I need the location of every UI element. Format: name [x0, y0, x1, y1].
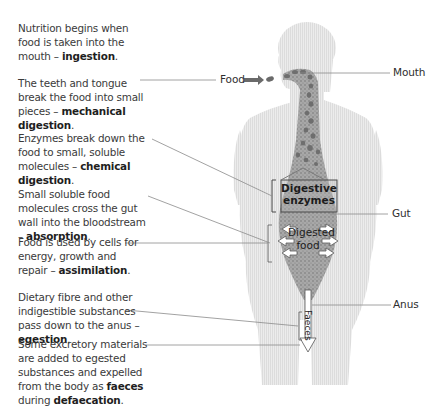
paragraph-tail: .: [121, 394, 124, 406]
term-defaecation: defaecation: [53, 394, 120, 406]
paragraph-tail: .: [115, 50, 118, 62]
term-faeces: faeces: [107, 380, 144, 392]
paragraph-defaecation: Some excretory materials are added to eg…: [18, 337, 162, 406]
paragraph-ingestion: Nutrition begins when food is taken into…: [18, 21, 146, 63]
paragraph-assimilation: Food is used by cells for energy, growth…: [18, 235, 148, 277]
label-digestive-enzymes: Digestive enzymes: [281, 182, 337, 206]
paragraph-mid: during: [18, 394, 53, 406]
paragraph-text: Dietary fibre and other indigestible sub…: [18, 291, 139, 331]
paragraph-chemical-digestion: Enzymes break down the food to small, so…: [18, 131, 154, 187]
label-digested: Digested: [288, 226, 328, 239]
label-gut: Gut: [392, 207, 411, 219]
label-enzymes: enzymes: [281, 194, 337, 206]
term-assimilation: assimilation: [59, 264, 128, 276]
label-food-inner: food: [288, 239, 328, 252]
paragraph-tail: .: [71, 119, 74, 131]
food-arrow: [244, 75, 275, 85]
label-mouth: Mouth: [393, 66, 425, 78]
label-anus: Anus: [393, 298, 419, 310]
label-digested-food: Digested food: [288, 226, 328, 252]
label-food: Food: [220, 73, 245, 85]
paragraph-tail: .: [71, 174, 74, 186]
term-ingestion: ingestion: [62, 50, 115, 62]
paragraph-tail: .: [127, 264, 130, 276]
paragraph-mechanical-digestion: The teeth and tongue break the food into…: [18, 76, 146, 132]
label-faeces: Faeces: [303, 310, 313, 341]
label-digestive: Digestive: [281, 182, 337, 194]
